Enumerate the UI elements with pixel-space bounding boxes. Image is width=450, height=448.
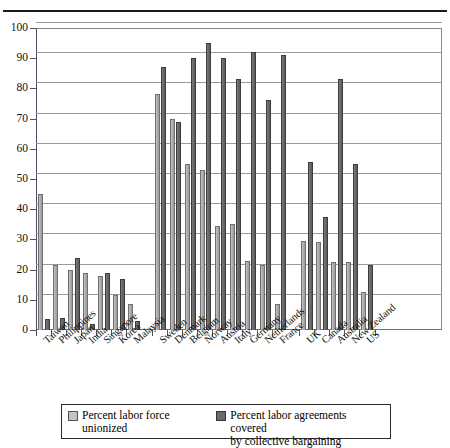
bar-group-anglo: [301, 28, 373, 330]
x-axis-labels: TaiwanPhilippinesJapanIndiaSingaporeKore…: [0, 336, 450, 394]
bar-unionized-norway: [200, 170, 205, 330]
bar-bargaining-germany: [251, 52, 256, 330]
bar-unionized-new-zealand: [346, 262, 351, 330]
y-axis-tick-label: 0: [0, 324, 28, 336]
bar-bargaining-new-zealand: [353, 164, 358, 330]
top-horizontal-rule: [3, 10, 447, 12]
bar-bargaining-denmark: [176, 122, 181, 330]
bar-unionized-denmark: [170, 119, 175, 330]
legend-label-unionized-line1: Percent labor force: [82, 409, 169, 421]
legend-label-unionized: Percent labor force unionized: [82, 409, 169, 435]
gridline: [36, 22, 442, 23]
bar-bargaining-belgium: [191, 58, 196, 330]
legend-entry-collective-bargaining: Percent labor agreements covered by coll…: [216, 409, 384, 448]
bar-series-container: [36, 28, 442, 330]
bar-unionized-philippines: [53, 265, 58, 330]
bar-bargaining-singapore: [105, 273, 110, 330]
light-gray-swatch-icon: [68, 411, 78, 421]
bar-unionized-netherlands: [260, 265, 265, 330]
bar-unionized-germany: [245, 261, 250, 330]
y-axis-tick-label: 20: [0, 264, 28, 276]
dark-gray-swatch-icon: [216, 411, 226, 421]
bar-bargaining-australia: [338, 79, 343, 330]
bar-bargaining-netherlands: [266, 100, 271, 330]
bar-unionized-canada: [316, 242, 321, 330]
bar-unionized-italy: [230, 224, 235, 330]
y-axis-tick-label: 90: [0, 52, 28, 64]
bar-unionized-sweden: [155, 94, 160, 330]
bar-unionized-taiwan: [38, 194, 43, 330]
bar-bargaining-taiwan: [45, 319, 50, 330]
y-axis-tick-label: 80: [0, 82, 28, 94]
legend-label-cb-line1: Percent labor agreements covered: [230, 409, 346, 434]
bar-unionized-singapore: [98, 276, 103, 330]
y-axis-tick-label: 50: [0, 173, 28, 185]
bar-unionized-japan: [68, 270, 73, 330]
y-axis-tick-label: 10: [0, 294, 28, 306]
bar-group-europe: [155, 28, 287, 330]
y-axis-tick-label: 70: [0, 113, 28, 125]
bar-unionized-australia: [331, 262, 336, 330]
bar-bargaining-italy: [236, 79, 241, 330]
bar-unionized-austria: [215, 226, 220, 330]
legend-label-unionized-line2: unionized: [82, 422, 127, 434]
bar-chart: 1009080706050403020100: [0, 22, 450, 342]
bar-bargaining-canada: [323, 217, 328, 330]
bar-bargaining-norway: [206, 43, 211, 330]
legend-label-collective-bargaining: Percent labor agreements covered by coll…: [230, 409, 384, 448]
bar-unionized-belgium: [185, 164, 190, 330]
bar-bargaining-sweden: [161, 67, 166, 330]
y-axis-tick-label: 40: [0, 203, 28, 215]
y-axis-tick-label: 30: [0, 233, 28, 245]
bar-bargaining-uk: [308, 162, 313, 330]
y-axis-tick-label: 100: [0, 22, 28, 34]
chart-legend: Percent labor force unionized Percent la…: [61, 404, 391, 439]
legend-entry-unionized: Percent labor force unionized: [68, 409, 216, 435]
legend-label-cb-line2: by collective bargaining: [230, 435, 341, 447]
bar-bargaining-france: [281, 55, 286, 330]
bar-group-asia: [38, 28, 140, 330]
y-axis-tick-label: 60: [0, 143, 28, 155]
bar-bargaining-austria: [221, 58, 226, 330]
